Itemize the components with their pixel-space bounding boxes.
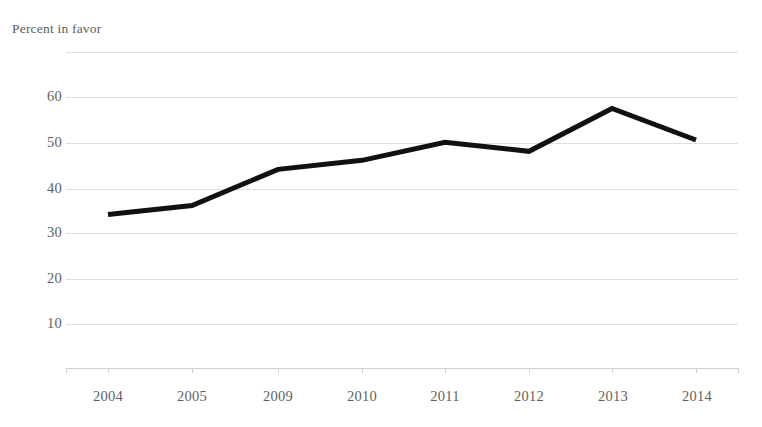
line-chart-figure: Percent in favor 60 50 40 30 20 10 2004 …	[0, 0, 762, 427]
plot-area: 60 50 40 30 20 10 2004 2005 2009 2010 20…	[0, 0, 762, 427]
clipped-footer-text	[6, 423, 762, 427]
series-line-percent-in-favor	[108, 108, 696, 214]
data-series-layer	[0, 0, 762, 427]
